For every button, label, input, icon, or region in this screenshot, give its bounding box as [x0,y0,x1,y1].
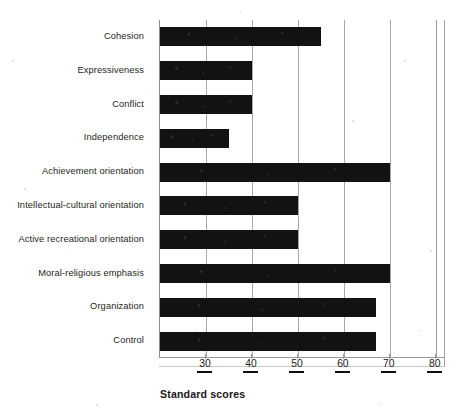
scan-speckle [430,250,432,252]
x-tick-label: 40 [234,358,268,371]
x-tick-label: 80 [418,358,452,371]
scan-speckle [404,60,406,62]
plot-right-frame [444,20,445,367]
category-label: Achievement orientation [42,166,144,178]
x-tick-underline [289,371,304,373]
category-label: Active recreational orientation [18,233,144,245]
x-tick-40: 40 [234,358,268,373]
scan-speckle [380,404,382,405]
x-axis-title: Standard scores [160,388,245,401]
x-tick-30: 30 [188,358,222,373]
x-tick-label: 50 [280,358,314,371]
category-label: Cohesion [104,31,144,43]
x-tick-60: 60 [326,358,360,373]
x-tick-underline [427,371,442,373]
scan-speckle [150,92,151,93]
bar [160,264,390,283]
scan-speckle [24,188,26,190]
gridline-70 [390,20,391,357]
scan-speckle [240,12,241,13]
x-axis: 304050607080 [0,358,459,388]
x-tick-label: 30 [188,358,222,371]
bar-chart: CohesionExpressivenessConflictIndependen… [0,0,459,415]
scan-speckle [70,250,71,251]
bar [160,27,321,46]
scan-speckle [118,200,120,201]
x-tick-underline [197,371,212,373]
plot-area [159,20,444,358]
x-tick-underline [335,371,350,373]
x-tick-70: 70 [372,358,406,373]
scan-speckle [420,330,421,332]
bar [160,332,376,351]
x-tick-80: 80 [418,358,452,373]
category-axis-labels: CohesionExpressivenessConflictIndependen… [0,20,152,358]
category-label: Conflict [112,98,144,110]
category-label: Independence [84,132,144,144]
bar [160,230,298,249]
bar [160,163,390,182]
gridline-80 [436,20,437,357]
bar [160,196,298,215]
category-label: Organization [90,301,144,313]
category-label: Moral-religious emphasis [38,267,144,279]
scan-speckle [352,120,354,122]
scan-speckle [12,60,14,62]
x-tick-50: 50 [280,358,314,373]
bar [160,95,252,114]
category-label: Intellectual-cultural orientation [17,200,144,212]
x-tick-underline [381,371,396,373]
bar [160,129,229,148]
x-tick-label: 60 [326,358,360,371]
category-label: Control [113,335,144,347]
category-label: Expressiveness [77,64,144,76]
x-tick-label: 70 [372,358,406,371]
scan-speckle [96,404,98,406]
x-tick-underline [243,371,258,373]
bar [160,61,252,80]
bar [160,298,376,317]
